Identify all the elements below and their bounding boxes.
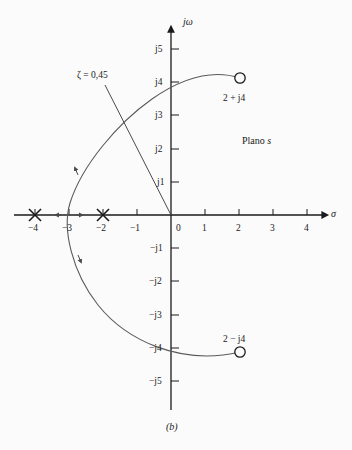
figure-caption: (b): [166, 422, 178, 432]
y-tick-label--j1: −j1: [150, 244, 163, 254]
y-tick-label--j4: −j4: [149, 344, 162, 354]
y-tick-label--j5: −j5: [149, 377, 162, 387]
x-tick-label-4: 4: [304, 224, 309, 234]
zero-marker-2-plus-j4: [235, 73, 245, 83]
plane-label-text: Plano: [242, 135, 265, 146]
x-tick-label--2: −2: [96, 224, 106, 234]
x-tick-label-3: 3: [270, 224, 275, 234]
x-tick-label-1: 1: [202, 224, 207, 234]
y-axis-label: jω: [183, 17, 193, 27]
zero-label-upper: 2 + j4: [223, 94, 245, 104]
y-tick-label-j4: j4: [155, 78, 162, 88]
y-tick-label--j2: −j2: [149, 277, 162, 287]
y-tick-label--j3: −j3: [149, 311, 162, 321]
zero-label-lower: 2 − j4: [223, 335, 245, 345]
zero-marker-2-minus-j4: [235, 347, 245, 357]
y-tick-label-j3: j3: [155, 111, 162, 121]
x-tick-label--4: −4: [28, 224, 38, 234]
plane-label-variable: s: [267, 135, 271, 146]
damping-ratio-label: ζ = 0,45: [77, 71, 108, 81]
s-plane-root-locus-figure: jω σ −4 −3 −2 −1 0 1 2 3 4 j5 j4 j3 j2 j…: [0, 0, 352, 450]
x-tick-label-0: 0: [176, 224, 181, 234]
y-tick-label-j5: j5: [155, 45, 162, 55]
x-tick-label--3: −3: [62, 224, 72, 234]
x-tick-label--1: −1: [130, 224, 140, 234]
x-axis-label: σ: [331, 209, 336, 219]
x-tick-label-2: 2: [236, 224, 241, 234]
plane-label: Plano s: [242, 136, 271, 146]
y-tick-label-j2: j2: [155, 145, 162, 155]
y-tick-label-j1: j1: [157, 178, 164, 188]
